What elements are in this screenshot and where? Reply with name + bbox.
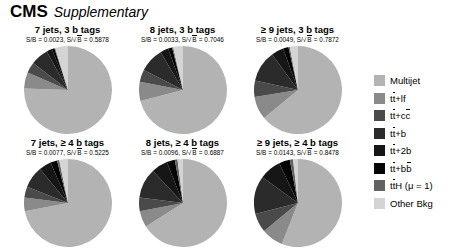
pie-chart	[125, 46, 240, 137]
legend-swatch-icon	[374, 128, 385, 139]
pie-svg	[254, 46, 342, 134]
legend-item: Multijet	[374, 72, 457, 90]
pie-chart-grid: 7 jets, 3 b tagsS/B = 0.0023, S/√B = 0.5…	[0, 24, 345, 251]
pie-svg	[24, 159, 112, 247]
pie-panel-p1: 7 jets, 3 b tagsS/B = 0.0023, S/√B = 0.5…	[10, 24, 125, 137]
pie-svg	[139, 159, 227, 247]
legend-item: Other Bkg	[374, 195, 457, 213]
legend-label: Multijet	[390, 75, 420, 86]
legend-item: tt+cc	[374, 107, 457, 125]
pie-panel-p4: 7 jets, ≥ 4 b tagsS/B = 0.0077, S/√B = 0…	[10, 137, 125, 250]
panel-title: 7 jets, 3 b tags	[10, 24, 125, 35]
pie-chart	[10, 46, 125, 137]
legend-item: tt+lf	[374, 90, 457, 108]
pie-panel-p2: 8 jets, 3 b tagsS/B = 0.0033, S/√B = 0.7…	[125, 24, 240, 137]
pie-svg	[24, 46, 112, 134]
panel-significance-stats: S/B = 0.0143, S/√B = 0.8478	[240, 149, 355, 157]
legend-label: tt+cc	[390, 110, 410, 121]
panel-title: 8 jets, ≥ 4 b tags	[125, 137, 240, 148]
legend-item: tt+2b	[374, 142, 457, 160]
legend-label: tt+b	[390, 128, 406, 139]
pie-panel-p5: 8 jets, ≥ 4 b tagsS/B = 0.0096, S/√B = 0…	[125, 137, 240, 250]
legend-item: tt+b	[374, 125, 457, 143]
legend-swatch-icon	[374, 75, 385, 86]
panel-significance-stats: S/B = 0.0049, S/√B = 0.7872	[240, 36, 355, 44]
legend-label: Other Bkg	[390, 198, 433, 209]
panel-title: 8 jets, 3 b tags	[125, 24, 240, 35]
pie-panel-p6: ≥ 9 jets, ≥ 4 b tagsS/B = 0.0143, S/√B =…	[240, 137, 355, 250]
pie-chart	[10, 159, 125, 250]
legend-label: ttH (μ = 1)	[390, 180, 433, 191]
legend-swatch-icon	[374, 110, 385, 121]
supplementary-label: Supplementary	[54, 4, 148, 20]
legend-label: tt+lf	[390, 93, 406, 104]
pie-svg	[139, 46, 227, 134]
pie-chart	[125, 159, 240, 250]
pie-chart	[240, 46, 355, 137]
panel-significance-stats: S/B = 0.0096, S/√B = 0.6887	[125, 149, 240, 157]
legend-swatch-icon	[374, 198, 385, 209]
panel-significance-stats: S/B = 0.0033, S/√B = 0.7046	[125, 36, 240, 44]
pie-panel-p3: ≥ 9 jets, 3 b tagsS/B = 0.0049, S/√B = 0…	[240, 24, 355, 137]
panel-title: 7 jets, ≥ 4 b tags	[10, 137, 125, 148]
legend: Multijettt+lftt+cctt+btt+2btt+bbttH (μ =…	[374, 72, 457, 212]
legend-item: ttH (μ = 1)	[374, 177, 457, 195]
pie-svg	[254, 159, 342, 247]
panel-title: ≥ 9 jets, 3 b tags	[240, 24, 355, 35]
panel-significance-stats: S/B = 0.0023, S/√B = 0.5878	[10, 36, 125, 44]
cms-logo-text: CMS	[10, 2, 48, 22]
legend-label: tt+2b	[390, 145, 411, 156]
legend-swatch-icon	[374, 163, 385, 174]
panel-significance-stats: S/B = 0.0077, S/√B = 0.5225	[10, 149, 125, 157]
pie-chart	[240, 159, 355, 250]
legend-swatch-icon	[374, 145, 385, 156]
panel-title: ≥ 9 jets, ≥ 4 b tags	[240, 137, 355, 148]
legend-swatch-icon	[374, 180, 385, 191]
plot-header: CMS Supplementary	[10, 2, 148, 22]
legend-swatch-icon	[374, 93, 385, 104]
legend-item: tt+bb	[374, 160, 457, 178]
legend-label: tt+bb	[390, 163, 411, 174]
